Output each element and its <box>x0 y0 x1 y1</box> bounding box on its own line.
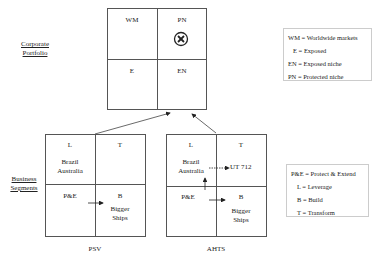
legend-t: T = Transform <box>291 206 364 219</box>
legend-b: B = Build <box>291 193 364 206</box>
legend-strategy: P&E = Protect & Extend L = Leverage B = … <box>286 164 369 217</box>
legend-pe: P&E = Protect & Extend <box>291 167 364 180</box>
legend-pn: PN = Protected niche <box>288 70 367 83</box>
legend-en: EN = Exposed niche <box>288 57 367 70</box>
legend-e: E = Exposed <box>288 44 367 57</box>
ahts-to-corporate-arrow <box>192 114 216 133</box>
psv-to-corporate-arrow <box>95 113 170 134</box>
legend-portfolio: WM = Worldwide markets E = Exposed EN = … <box>283 28 372 81</box>
legend-l: L = Leverage <box>291 180 364 193</box>
legend-wm: WM = Worldwide markets <box>288 31 367 44</box>
